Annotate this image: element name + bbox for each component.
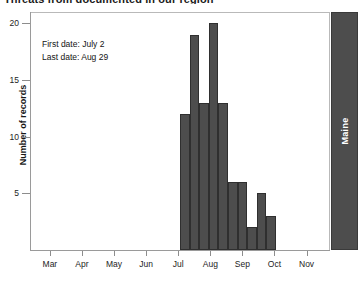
bar	[218, 103, 228, 250]
bar	[209, 23, 219, 250]
bar	[247, 227, 257, 250]
chart-root: Threats from documented in our region Nu…	[0, 0, 360, 287]
last-date-label: Last date: Aug 29	[42, 51, 108, 64]
region-panel: Maine	[331, 12, 358, 250]
bar	[266, 216, 276, 250]
date-annotation: First date: July 2 Last date: Aug 29	[42, 38, 108, 63]
region-panel-label: Maine	[340, 117, 350, 144]
bar	[238, 182, 248, 250]
bar	[180, 114, 190, 250]
bar	[190, 35, 200, 250]
bar	[199, 103, 209, 250]
bar	[257, 193, 267, 250]
first-date-label: First date: July 2	[42, 38, 108, 51]
bar	[228, 182, 238, 250]
